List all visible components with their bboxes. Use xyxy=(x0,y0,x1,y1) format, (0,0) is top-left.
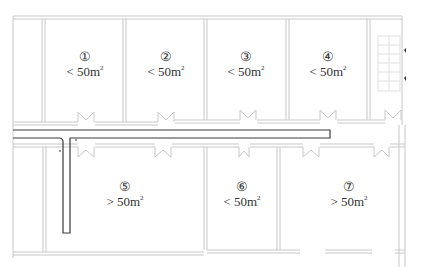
room-number: ⑦ xyxy=(314,180,384,195)
stair-arrow-icon xyxy=(404,48,406,53)
room-1-label: ① < 50m2 xyxy=(50,50,120,80)
room-4-label: ④ < 50m2 xyxy=(293,50,363,80)
room-number: ④ xyxy=(293,50,363,65)
floor-plan: ① < 50m2 ② < 50m2 ③ < 50m2 ④ < 50m2 ⑤ > … xyxy=(0,0,429,267)
room-area: < 50m2 xyxy=(207,195,277,210)
room-6-label: ⑥ < 50m2 xyxy=(207,180,277,210)
room-area: < 50m2 xyxy=(131,65,201,80)
floor-plan-drawing xyxy=(0,0,429,267)
room-number: ① xyxy=(50,50,120,65)
room-number: ⑤ xyxy=(90,180,160,195)
stair-arrow-icon xyxy=(404,76,406,81)
room-number: ② xyxy=(131,50,201,65)
room-number: ⑥ xyxy=(207,180,277,195)
room-area: > 50m2 xyxy=(314,195,384,210)
room-7-label: ⑦ > 50m2 xyxy=(314,180,384,210)
pipe xyxy=(13,130,330,233)
room-3-label: ③ < 50m2 xyxy=(211,50,281,80)
room-area: > 50m2 xyxy=(90,195,160,210)
stairwell xyxy=(378,36,400,91)
room-5-label: ⑤ > 50m2 xyxy=(90,180,160,210)
room-2-label: ② < 50m2 xyxy=(131,50,201,80)
room-area: < 50m2 xyxy=(50,65,120,80)
room-area: < 50m2 xyxy=(293,65,363,80)
room-area: < 50m2 xyxy=(211,65,281,80)
room-number: ③ xyxy=(211,50,281,65)
